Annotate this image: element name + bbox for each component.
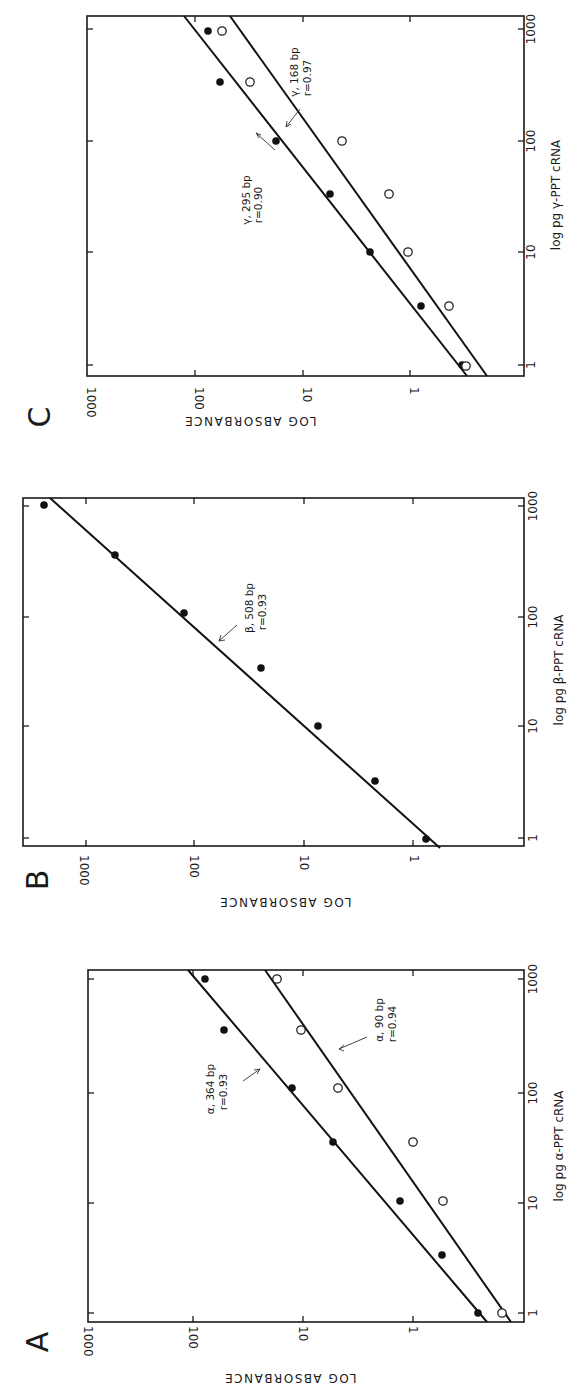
annotation-text: β, 508 bp: [243, 583, 255, 633]
annotation-text: α, 90 bp: [373, 998, 385, 1042]
tick-label: 1: [406, 1326, 420, 1334]
x-axis-tick-labels-b: 1000 100 10 1: [526, 491, 540, 842]
y-axis-label-c: LOG ABSORBANCE: [184, 414, 317, 428]
panel-b: B 1000 100 10 1 LOG ABSORBANCE: [20, 491, 566, 909]
annotation-text: α, 364 bp: [204, 1064, 216, 1115]
annotation-text: r=0.94: [386, 1005, 398, 1042]
panel-letter-c: C: [22, 407, 57, 428]
x-axis-tick-labels-c: 1000 100 10 1: [524, 14, 538, 369]
tick-label: 10: [526, 1195, 540, 1210]
annotation-text: r=0.97: [301, 60, 313, 97]
y-axis-tick-labels-a: 1000 100 10 1: [81, 1326, 420, 1357]
plot-frame-a: [88, 970, 524, 1322]
tick-label: 10: [300, 387, 314, 402]
annotation-beta-508: β, 508 bp r=0.93: [219, 583, 268, 641]
tick-label: 1000: [84, 387, 98, 418]
annotation-text: γ, 295 bp: [240, 175, 252, 225]
y-axis-ticks-b: [86, 498, 413, 846]
x-axis-label-c: log pg γ-PPT cRNA: [549, 139, 563, 250]
annotation-gamma-295: γ, 295 bp r=0.90: [240, 133, 275, 225]
y-axis-tick-labels-c: 1000 100 10 1: [84, 387, 421, 418]
tick-label: 100: [526, 1082, 540, 1105]
x-axis-label-b: log pg β-PPT cRNA: [552, 614, 566, 726]
tick-label: 1: [407, 855, 421, 863]
tick-label: 100: [524, 130, 538, 153]
annotation-alpha-364: α, 364 bp r=0.93: [204, 1064, 260, 1115]
annotation-text: r=0.93: [217, 1074, 229, 1111]
fit-line-alpha-364: [188, 970, 487, 1322]
fit-line-gamma-168: [230, 16, 487, 376]
y-axis-label-a: LOG ABSORBANCE: [224, 1371, 357, 1385]
tick-label: 100: [186, 1326, 200, 1349]
tick-label: 10: [297, 855, 311, 870]
x-axis-tick-labels-a: 1000 100 10 1: [526, 964, 540, 1317]
annotation-alpha-90: α, 90 bp r=0.94: [339, 998, 398, 1051]
tick-label: 10: [296, 1326, 310, 1341]
plot-frame-b: [23, 498, 524, 846]
series-beta-508-points: [40, 501, 430, 843]
panel-letter-a: A: [20, 1331, 55, 1352]
fit-line-gamma-295: [184, 16, 467, 376]
tick-label: 1: [524, 361, 538, 369]
panel-letter-b: B: [20, 870, 55, 891]
tick-label: 1: [526, 834, 540, 842]
x-axis-label-a: log pg α-PPT cRNA: [552, 1090, 566, 1202]
annotation-text: r=0.90: [252, 187, 264, 224]
y-axis-tick-labels-b: 1000 100 10 1: [77, 855, 421, 886]
tick-label: 1000: [526, 964, 540, 995]
figure-canvas: C 1000 100 10 1 LOG ABSORBANCE: [0, 0, 586, 1391]
tick-label: 1000: [524, 14, 538, 45]
panel-a: A 1000 100 10 1 LOG ABSORBANCE: [20, 964, 566, 1385]
tick-label: 10: [524, 244, 538, 259]
tick-label: 100: [526, 606, 540, 629]
tick-label: 1: [526, 1309, 540, 1317]
tick-label: 1000: [526, 491, 540, 522]
annotation-text: γ, 168 bp: [288, 47, 300, 97]
tick-label: 1: [407, 387, 421, 395]
y-axis-label-b: LOG ABSORBANCE: [219, 895, 352, 909]
tick-label: 100: [192, 387, 206, 410]
tick-label: 10: [526, 718, 540, 733]
fit-line-beta-508: [50, 498, 440, 848]
tick-label: 1000: [81, 1326, 95, 1357]
annotation-text: r=0.93: [256, 594, 268, 631]
panel-c: C 1000 100 10 1 LOG ABSORBANCE: [22, 14, 563, 428]
x-axis-ticks-b: [23, 506, 524, 838]
tick-label: 1000: [77, 855, 91, 886]
tick-label: 100: [187, 855, 201, 878]
